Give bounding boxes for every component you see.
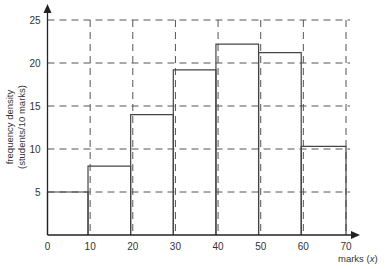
- histogram-bars: [48, 44, 347, 235]
- x-tick-label: 60: [298, 241, 310, 252]
- axes: [44, 4, 361, 239]
- y-axis-label-line2: (students/10 marks): [16, 85, 27, 169]
- histogram-chart: 510152025 010203040506070 frequency dens…: [0, 0, 390, 269]
- histogram-bar: [216, 44, 259, 235]
- y-axis-arrow-icon: [44, 4, 52, 13]
- histogram-bar: [131, 115, 174, 235]
- x-tick-label: 40: [213, 241, 225, 252]
- x-tick-label: 50: [255, 241, 267, 252]
- y-tick-label: 5: [35, 187, 41, 198]
- x-tick-labels: 010203040506070: [45, 241, 352, 252]
- y-tick-label: 10: [29, 144, 41, 155]
- x-tick-label: 10: [85, 241, 97, 252]
- y-tick-label: 25: [29, 15, 41, 26]
- histogram-bar: [88, 166, 131, 235]
- histogram-bar: [48, 192, 89, 235]
- x-axis-label: marks (x): [338, 253, 378, 264]
- histogram-bar: [301, 146, 346, 235]
- x-axis-arrow-icon: [351, 231, 360, 239]
- x-tick-label: 70: [340, 241, 352, 252]
- x-tick-label: 0: [45, 241, 51, 252]
- x-tick-label: 20: [127, 241, 139, 252]
- y-tick-label: 20: [29, 58, 41, 69]
- histogram-bar: [259, 53, 302, 235]
- y-axis-label-line1: frequency density: [4, 90, 15, 165]
- histogram-bar: [173, 70, 216, 235]
- y-tick-labels: 510152025: [29, 15, 41, 198]
- grid-lines: [48, 20, 351, 235]
- x-tick-label: 30: [170, 241, 182, 252]
- y-tick-label: 15: [29, 101, 41, 112]
